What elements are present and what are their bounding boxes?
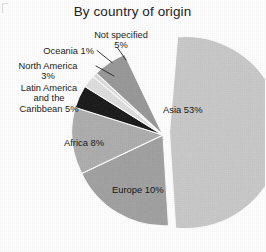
slice-label-europe: Europe 10% xyxy=(112,184,164,195)
callout-label-latin-america: Latin America and the Caribbean 5% xyxy=(4,83,94,114)
leader-line-oceania xyxy=(97,51,112,63)
slice-label-asia: Asia 53% xyxy=(163,104,203,115)
pie-chart-figure: By country of origin xyxy=(0,0,265,252)
pie-slice-asia xyxy=(170,37,266,229)
slice-label-africa: Africa 8% xyxy=(64,137,104,148)
callout-label-oceania: Oceania 1% xyxy=(8,46,94,56)
callout-label-north-america: North America 3% xyxy=(2,61,94,82)
